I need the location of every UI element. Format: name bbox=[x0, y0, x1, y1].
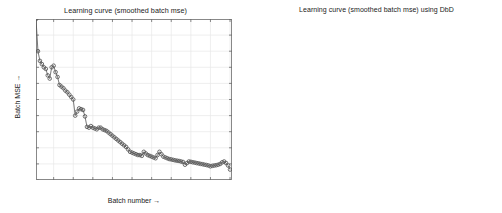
y-axis-label-left: Batch MSE → bbox=[14, 47, 21, 147]
chart-title-left: Learning curve (smoothed batch mse) bbox=[0, 6, 251, 15]
figure-row: Learning curve (smoothed batch mse) 00.1… bbox=[0, 0, 502, 213]
chart-canvas-left: 00.10.20.30.40.50.60.70.80.9110203040506… bbox=[36, 19, 232, 180]
plot-area-left: 00.10.20.30.40.50.60.70.80.9110203040506… bbox=[36, 19, 232, 180]
figure-right: Learning curve (smoothed batch mse) usin… bbox=[251, 0, 502, 213]
chart-title-right: Learning curve (smoothed batch mse) usin… bbox=[251, 6, 502, 13]
figure-left: Learning curve (smoothed batch mse) 00.1… bbox=[0, 0, 251, 213]
x-axis-label-left: Batch number → bbox=[36, 197, 232, 204]
